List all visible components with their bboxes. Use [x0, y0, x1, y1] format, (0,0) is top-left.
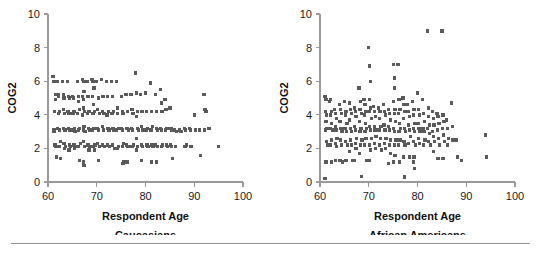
data-point — [362, 98, 365, 101]
data-point — [105, 113, 108, 116]
data-point — [77, 128, 80, 131]
data-point — [344, 110, 347, 113]
data-point — [175, 130, 178, 133]
data-point — [343, 127, 346, 130]
data-point — [76, 80, 79, 83]
data-point — [334, 125, 337, 128]
data-point — [350, 112, 353, 115]
data-point — [339, 127, 342, 130]
data-point — [384, 113, 387, 116]
data-point — [442, 133, 445, 136]
data-points-group — [323, 29, 488, 180]
data-point — [418, 142, 421, 145]
data-point — [68, 128, 71, 131]
data-point — [68, 96, 71, 99]
data-point — [189, 128, 192, 131]
data-point — [82, 160, 85, 163]
data-point — [199, 154, 202, 157]
data-point — [126, 110, 129, 113]
data-point — [160, 101, 163, 104]
data-point — [423, 138, 426, 141]
data-point — [407, 110, 410, 113]
data-point — [358, 120, 361, 123]
data-point — [59, 157, 62, 160]
data-point — [134, 71, 137, 74]
data-point — [374, 115, 377, 118]
data-point — [447, 137, 450, 140]
data-point — [135, 148, 138, 151]
data-point — [154, 93, 157, 96]
data-point — [433, 140, 436, 143]
scatter-plot-caucasians: 024681060708090100COG2Respondent AgeCauc… — [0, 0, 272, 235]
y-axis-title: COG2 — [278, 82, 290, 113]
data-point — [184, 128, 187, 131]
data-point — [76, 112, 79, 115]
data-point — [446, 143, 449, 146]
data-point — [93, 148, 96, 151]
data-point — [426, 127, 429, 130]
data-point — [349, 138, 352, 141]
data-point — [422, 112, 425, 115]
data-point — [388, 128, 391, 131]
data-point — [384, 147, 387, 150]
data-point — [389, 118, 392, 121]
data-point — [103, 145, 106, 148]
data-point — [379, 125, 382, 128]
data-point — [392, 127, 395, 130]
data-point — [397, 112, 400, 115]
data-point — [438, 143, 441, 146]
data-point — [67, 112, 70, 115]
data-point — [110, 112, 113, 115]
data-point — [387, 125, 390, 128]
x-tick-label-60: 60 — [42, 190, 54, 202]
data-point — [92, 86, 95, 89]
data-point — [325, 140, 328, 143]
data-point — [51, 75, 54, 78]
data-point — [397, 98, 400, 101]
data-point — [88, 128, 91, 131]
data-point — [73, 130, 76, 133]
data-point — [330, 138, 333, 141]
data-point — [340, 130, 343, 133]
data-point — [102, 128, 105, 131]
data-point — [150, 160, 153, 163]
data-point — [416, 122, 419, 125]
data-point — [77, 95, 80, 98]
x-tick-label-70: 70 — [91, 190, 103, 202]
data-point — [130, 108, 133, 111]
data-point — [450, 101, 453, 104]
data-point — [126, 145, 129, 148]
data-point — [122, 160, 125, 163]
data-point — [102, 112, 105, 115]
data-point — [79, 142, 82, 145]
data-point — [380, 148, 383, 151]
x-axis-title: Respondent Age — [374, 210, 461, 222]
data-point — [345, 122, 348, 125]
data-point — [412, 140, 415, 143]
data-point — [359, 127, 362, 130]
data-point — [335, 117, 338, 120]
data-point — [100, 78, 103, 81]
data-point — [59, 140, 62, 143]
data-point — [131, 112, 134, 115]
data-point — [146, 145, 149, 148]
data-point — [144, 91, 147, 94]
data-point — [428, 132, 431, 135]
data-point — [204, 110, 207, 113]
data-point — [62, 96, 65, 99]
data-point — [364, 137, 367, 140]
data-point — [338, 120, 341, 123]
data-point — [63, 112, 66, 115]
data-point — [85, 80, 88, 83]
panel-caucasians: 024681060708090100COG2Respondent AgeCauc… — [0, 0, 272, 235]
data-point — [131, 128, 134, 131]
data-point — [382, 103, 385, 106]
data-point — [98, 145, 101, 148]
data-point — [412, 108, 415, 111]
data-point — [416, 91, 419, 94]
data-point — [413, 167, 416, 170]
data-point — [417, 137, 420, 140]
data-point — [417, 127, 420, 130]
data-point — [96, 108, 99, 111]
data-point — [95, 80, 98, 83]
